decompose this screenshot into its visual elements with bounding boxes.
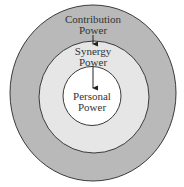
middle-label-line2: Power bbox=[79, 56, 107, 68]
outer-label-line2: Power bbox=[79, 24, 107, 36]
power-circles-diagram: Contribution Power Synergy Power Persona… bbox=[0, 0, 184, 187]
inner-label-line2: Power bbox=[78, 101, 106, 113]
